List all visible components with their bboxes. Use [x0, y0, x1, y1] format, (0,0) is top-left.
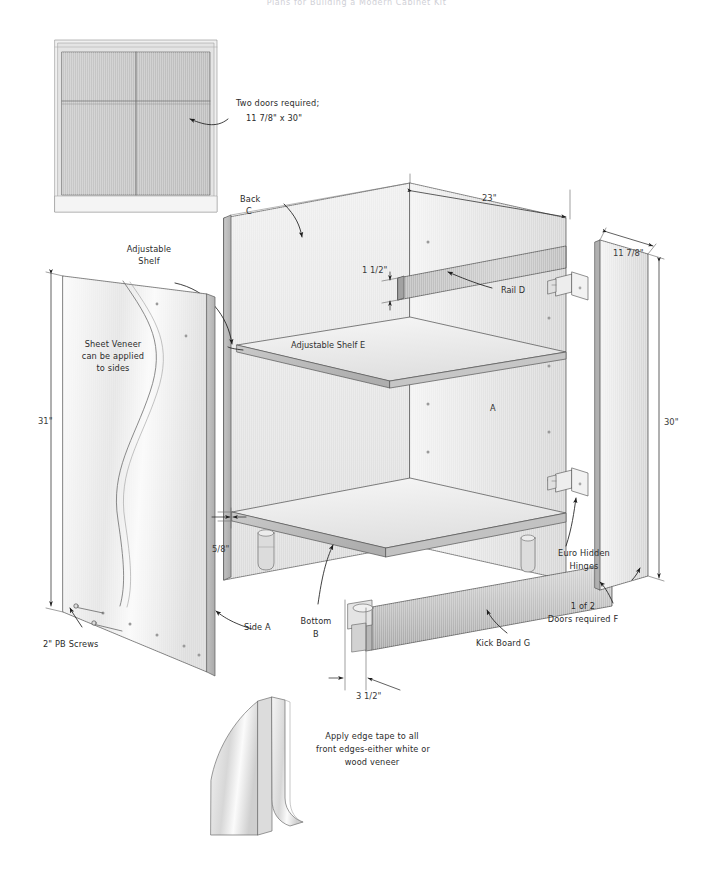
diagram-canvas: Plans for Building a Modern Cabinet Kit [0, 0, 713, 876]
label-doors-f-count: 1 of 2 [540, 601, 626, 613]
label-two-doors-required: Two doors required; [236, 98, 319, 110]
label-back-letter: C [246, 206, 252, 218]
label-edge-tape-line3: wood veneer [296, 757, 448, 769]
label-back: Back [240, 194, 260, 206]
side-panel-a [63, 276, 215, 676]
label-kick-board-g: Kick Board G [476, 638, 530, 650]
label-adjustable-shelf-e: Adjustable Shelf E [291, 340, 365, 350]
label-sheet-veneer-line3: to sides [58, 363, 168, 375]
label-edge-tape-line2: front edges-either white or [290, 744, 456, 756]
label-rail-d: Rail D [501, 285, 525, 295]
cabinet-leg [521, 535, 535, 572]
dimension-depth-11-7-8: 11 7/8" [613, 248, 644, 258]
label-edge-tape-line1: Apply edge tape to all [296, 731, 448, 743]
door-elevation-view [55, 40, 217, 212]
label-bottom: Bottom [288, 616, 344, 628]
label-adjustable-shelf-line1: Adjustable [104, 244, 194, 256]
label-side-a: Side A [244, 622, 271, 634]
label-two-doors-size: 11 7/8" x 30" [246, 113, 302, 125]
dimension-kick-3-1-2: 3 1/2" [356, 691, 381, 701]
label-side-a-letter: A [490, 403, 496, 413]
label-euro-hinges-line1: Euro Hidden [545, 548, 623, 560]
label-sheet-veneer-line2: can be applied [58, 351, 168, 363]
dimension-rail-1-1-2: 1 1/2" [362, 265, 387, 275]
label-adjustable-shelf-line2: Shelf [104, 256, 194, 268]
edge-tape-sample [211, 697, 303, 835]
dimension-width-23: 23" [482, 193, 497, 203]
label-doors-f: Doors required F [528, 614, 638, 626]
label-pb-screws: 2" PB Screws [43, 639, 98, 651]
dimension-height-31: 31" [38, 416, 53, 426]
door-panel-f [595, 240, 648, 590]
dimension-thickness-5-8: 5/8" [212, 544, 229, 554]
label-bottom-letter: B [288, 629, 344, 641]
label-euro-hinges-line2: Hinges [545, 561, 623, 573]
label-sheet-veneer-line1: Sheet Veneer [58, 339, 168, 351]
cabinet-leg [258, 530, 274, 570]
dimension-height-30: 30" [664, 417, 679, 427]
